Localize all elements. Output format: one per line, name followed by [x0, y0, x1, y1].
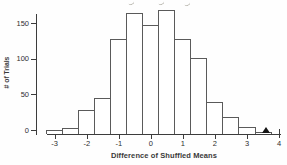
histogram-bar — [158, 10, 175, 134]
histogram-bar — [94, 98, 111, 134]
x-tick-label: -1 — [111, 140, 127, 148]
y-tick-label: 0 — [9, 127, 29, 135]
x-tick-label: 0 — [143, 140, 159, 148]
cropped-text-remnant — [183, 0, 190, 7]
y-tick — [31, 130, 36, 131]
y-axis-line — [36, 14, 37, 135]
x-tick-label: 4 — [271, 140, 287, 148]
x-tick — [87, 134, 88, 139]
x-tick-label: 1 — [175, 140, 191, 148]
x-tick-label: 3 — [239, 140, 255, 148]
y-tick — [31, 23, 36, 24]
histogram-bar — [174, 39, 191, 134]
y-tick — [31, 94, 36, 95]
x-tick — [183, 134, 184, 139]
histogram-bar — [126, 13, 143, 134]
histogram-figure: # of Trials Difference of Shuffled Means… — [0, 0, 287, 165]
x-tick — [215, 134, 216, 139]
cropped-text-remnant — [157, 0, 164, 6]
x-tick — [151, 134, 152, 139]
histogram-bar — [78, 110, 95, 134]
x-tick — [55, 134, 56, 139]
x-tick-label: -3 — [47, 140, 63, 148]
histogram-bar — [206, 102, 223, 134]
x-axis-title: Difference of Shuffled Means — [47, 151, 281, 160]
x-axis-line — [47, 134, 281, 135]
histogram-bar — [190, 58, 207, 134]
y-tick-label: 100 — [9, 55, 29, 63]
x-tick-label: -2 — [79, 140, 95, 148]
histogram-bar — [142, 25, 159, 134]
x-tick — [247, 134, 248, 139]
y-tick-label: 150 — [9, 20, 29, 28]
histogram-bar — [110, 39, 127, 134]
x-tick-label: 2 — [207, 140, 223, 148]
x-tick — [279, 129, 280, 138]
x-tick — [119, 134, 120, 139]
y-tick-label: 50 — [9, 91, 29, 99]
cropped-text-remnant — [127, 0, 134, 6]
y-tick — [31, 59, 36, 60]
histogram-bar — [222, 117, 239, 134]
observed-difference-triangle-marker — [262, 127, 270, 133]
